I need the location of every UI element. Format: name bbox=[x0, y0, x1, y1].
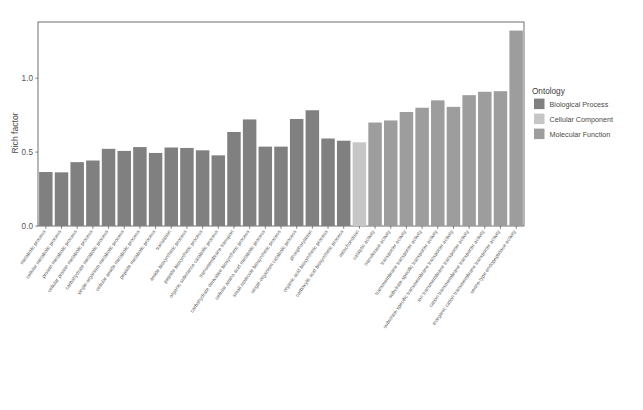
bar bbox=[353, 142, 366, 226]
legend-swatch[interactable] bbox=[534, 129, 545, 140]
bar bbox=[86, 161, 99, 226]
bar bbox=[39, 172, 52, 226]
bar bbox=[494, 91, 507, 226]
bar bbox=[259, 147, 272, 226]
y-axis-title: Rich factor bbox=[10, 112, 20, 153]
y-tick-label: 1.0 bbox=[22, 74, 34, 83]
bar bbox=[415, 108, 428, 226]
bar bbox=[447, 107, 460, 226]
bar bbox=[102, 149, 115, 226]
bar bbox=[243, 119, 256, 226]
figure-container: 0.00.51.0 metabolic processcellular meta… bbox=[0, 0, 643, 410]
legend-swatch[interactable] bbox=[534, 114, 545, 125]
bar bbox=[227, 132, 240, 226]
bar bbox=[431, 100, 444, 226]
bar bbox=[478, 92, 491, 226]
y-tick-label: 0.0 bbox=[22, 222, 34, 231]
bar bbox=[133, 147, 146, 226]
bar bbox=[400, 112, 413, 226]
bar bbox=[384, 120, 397, 226]
bar bbox=[212, 155, 225, 226]
bar bbox=[70, 162, 83, 226]
legend-item-label[interactable]: Molecular Function bbox=[550, 130, 611, 139]
rich-factor-bar-chart: 0.00.51.0 metabolic processcellular meta… bbox=[0, 0, 643, 410]
bar bbox=[196, 150, 209, 226]
bar bbox=[55, 172, 68, 226]
bar bbox=[149, 153, 162, 226]
legend-title: Ontology bbox=[532, 87, 566, 96]
bar bbox=[462, 95, 475, 226]
bar bbox=[180, 148, 193, 226]
bar bbox=[117, 151, 130, 226]
legend-item-label[interactable]: Cellular Component bbox=[550, 115, 614, 124]
bar bbox=[509, 31, 522, 226]
bar bbox=[290, 119, 303, 226]
bar bbox=[368, 123, 381, 226]
bar bbox=[321, 138, 334, 226]
bar bbox=[165, 148, 178, 227]
y-tick-label: 0.5 bbox=[22, 148, 34, 157]
bar bbox=[306, 110, 319, 226]
bar bbox=[274, 147, 287, 226]
legend-item-label[interactable]: Biological Process bbox=[550, 100, 609, 109]
bar bbox=[337, 141, 350, 226]
legend-swatch[interactable] bbox=[534, 99, 545, 110]
